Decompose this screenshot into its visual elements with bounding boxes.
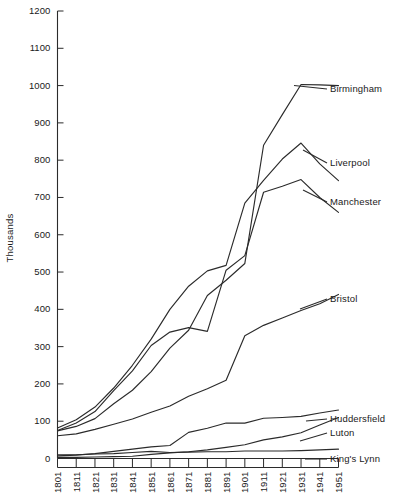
x-axis-tick-label: 1801	[52, 472, 63, 494]
series-label-birmingham: Birmingham	[330, 83, 382, 94]
y-axis-tick-label: 100	[34, 415, 50, 426]
x-axis-tick-label: 1911	[258, 472, 269, 493]
population-line-chart: 0100200300400500600700800900100011001200…	[0, 0, 395, 497]
x-axis-tick-label: 1811	[71, 472, 82, 493]
x-axis-tick-label: 1831	[108, 472, 119, 494]
y-axis-title: Thousands	[4, 214, 15, 263]
x-axis-tick-label: 1871	[183, 472, 194, 494]
y-axis-tick-label: 200	[34, 378, 50, 389]
y-axis-tick-label: 300	[34, 341, 50, 352]
y-axis-tick-label: 1200	[29, 5, 51, 16]
x-axis-tick-label: 1951	[333, 472, 344, 494]
y-axis-tick-label: 800	[34, 154, 50, 165]
x-axis-tick-label: 1941	[314, 472, 325, 494]
y-axis-tick-label: 500	[34, 266, 50, 277]
x-axis-tick-label: 1841	[127, 472, 138, 494]
x-axis-tick-label: 1921	[277, 472, 288, 494]
x-axis-tick-label: 1861	[165, 472, 176, 494]
x-axis-tick-label: 1931	[296, 472, 307, 494]
series-label-bristol: Bristol	[330, 293, 357, 304]
chart-canvas: 0100200300400500600700800900100011001200…	[0, 0, 395, 497]
y-axis-tick-label: 600	[34, 229, 50, 240]
x-axis-tick-label: 1821	[90, 472, 101, 494]
series-label-liverpool: Liverpool	[330, 157, 370, 168]
y-axis-tick-label: 0	[45, 453, 50, 464]
series-label-luton: Luton	[330, 427, 355, 438]
x-axis-tick-label: 1891	[221, 472, 232, 494]
y-axis-tick-label: 400	[34, 303, 50, 314]
x-axis-tick-label: 1851	[146, 472, 157, 494]
x-axis-tick-label: 1901	[239, 472, 250, 494]
series-label-manchester: Manchester	[330, 196, 381, 207]
axis-titles: Thousands	[4, 214, 15, 263]
x-axis-tick-label: 1881	[202, 472, 213, 494]
series-label-king-s-lynn: King's Lynn	[330, 453, 380, 464]
series-label-huddersfield: Huddersfield	[330, 413, 385, 424]
y-axis-tick-label: 700	[34, 191, 50, 202]
y-axis-tick-label: 900	[34, 117, 50, 128]
y-axis-tick-label: 1100	[30, 42, 51, 53]
y-axis-tick-label: 1000	[29, 80, 51, 91]
